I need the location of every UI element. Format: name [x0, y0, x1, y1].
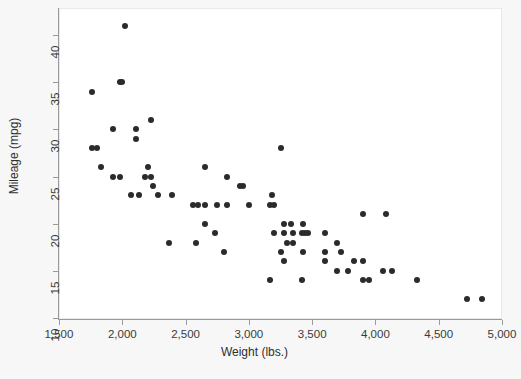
x-tick-label: 4,500 [404, 327, 474, 341]
data-point [414, 277, 420, 283]
data-point [267, 277, 273, 283]
data-point [214, 202, 220, 208]
data-point [464, 296, 470, 302]
data-point [142, 174, 148, 180]
data-point [334, 268, 340, 274]
data-point [278, 145, 284, 151]
x-tick-mark [375, 320, 376, 325]
x-tick-label: 1,500 [24, 327, 94, 341]
x-tick-label: 5,000 [467, 327, 521, 341]
data-point [305, 230, 311, 236]
x-tick-label: 2,000 [87, 327, 157, 341]
x-tick-mark [439, 320, 440, 325]
data-point [389, 268, 395, 274]
data-point [166, 240, 172, 246]
data-point [290, 230, 296, 236]
data-point [338, 249, 344, 255]
data-point [117, 174, 123, 180]
data-point [360, 277, 366, 283]
data-point [334, 240, 340, 246]
data-point [269, 192, 275, 198]
x-tick-mark [186, 320, 187, 325]
data-point [278, 249, 284, 255]
data-point [212, 230, 218, 236]
data-point [136, 192, 142, 198]
data-point [281, 221, 287, 227]
x-tick-mark [122, 320, 123, 325]
data-point [169, 192, 175, 198]
data-point [119, 79, 125, 85]
data-point [271, 202, 277, 208]
data-point [128, 192, 134, 198]
y-axis-title-label: Mileage (mpg) [7, 117, 21, 194]
data-point [150, 183, 156, 189]
x-tick-mark [249, 320, 250, 325]
data-point [148, 174, 154, 180]
data-point [202, 221, 208, 227]
data-point [322, 230, 328, 236]
data-point [133, 136, 139, 142]
data-point [224, 202, 230, 208]
data-point [240, 183, 246, 189]
data-point [110, 126, 116, 132]
data-point [193, 240, 199, 246]
data-point [366, 277, 372, 283]
data-point [345, 268, 351, 274]
data-point [98, 164, 104, 170]
data-point [202, 202, 208, 208]
data-point [221, 249, 227, 255]
data-point [299, 277, 305, 283]
x-tick-label: 4,000 [340, 327, 410, 341]
data-point [271, 230, 277, 236]
data-point [89, 89, 95, 95]
x-tick-mark [502, 320, 503, 325]
data-point [360, 258, 366, 264]
data-point [133, 126, 139, 132]
x-tick-mark [312, 320, 313, 325]
data-point [300, 221, 306, 227]
x-tick-mark [59, 320, 60, 325]
data-point [281, 258, 287, 264]
data-point-layer [59, 8, 502, 319]
data-point [155, 192, 161, 198]
data-point [383, 211, 389, 217]
data-point [360, 211, 366, 217]
data-point [300, 249, 306, 255]
data-point [110, 174, 116, 180]
data-point [122, 23, 128, 29]
data-point [148, 117, 154, 123]
data-point [284, 240, 290, 246]
x-tick-label: 2,500 [151, 327, 221, 341]
data-point [380, 268, 386, 274]
data-point [479, 296, 485, 302]
data-point [145, 164, 151, 170]
data-point [322, 258, 328, 264]
data-point [195, 202, 201, 208]
data-point [351, 258, 357, 264]
x-axis-line [58, 319, 502, 320]
data-point [281, 230, 287, 236]
data-point [224, 174, 230, 180]
data-point [290, 240, 296, 246]
data-point [288, 221, 294, 227]
data-point [246, 202, 252, 208]
y-axis-title: Mileage (mpg) [6, 0, 22, 311]
data-point [202, 164, 208, 170]
data-point [94, 145, 100, 151]
x-axis-title: Weight (lbs.) [0, 345, 509, 359]
x-tick-label: 3,500 [277, 327, 347, 341]
x-tick-label: 3,000 [214, 327, 284, 341]
data-point [322, 249, 328, 255]
